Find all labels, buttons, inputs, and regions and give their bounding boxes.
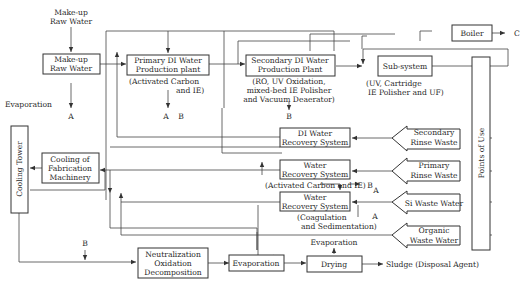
svg-text:Raw Water: Raw Water bbox=[50, 17, 93, 26]
points-of-use: Points of Use bbox=[472, 57, 490, 250]
svg-text:Recovery System: Recovery System bbox=[282, 138, 348, 147]
svg-text:Sub-system: Sub-system bbox=[383, 62, 427, 71]
svg-text:Drying: Drying bbox=[321, 260, 347, 269]
water-recovery-system-2: Water Recovery System (Coagulation and S… bbox=[280, 192, 377, 231]
svg-text:(UV, Cartridge: (UV, Cartridge bbox=[366, 79, 422, 88]
svg-text:Recovery System: Recovery System bbox=[282, 202, 348, 211]
svg-text:Primary: Primary bbox=[419, 161, 451, 170]
svg-text:Cooling of: Cooling of bbox=[50, 155, 91, 164]
svg-text:(Activated Carbon and IE): (Activated Carbon and IE) bbox=[265, 181, 366, 190]
svg-text:DI Water: DI Water bbox=[298, 129, 333, 138]
secondary-rinse-waste: Secondary Rinse Waste bbox=[392, 126, 460, 151]
marker-c: C bbox=[514, 29, 520, 38]
si-waste-water: Si Waste Water bbox=[392, 191, 464, 214]
svg-text:Production plant: Production plant bbox=[136, 65, 200, 74]
svg-text:Evaporation: Evaporation bbox=[233, 259, 280, 268]
marker-a: A bbox=[371, 212, 378, 221]
drying: Drying bbox=[307, 256, 362, 272]
secondary-di-water-plant: Secondary DI Water Production Plant (RO,… bbox=[243, 55, 335, 104]
svg-text:and Sedimentation): and Sedimentation) bbox=[301, 222, 377, 231]
svg-text:Primary DI Water: Primary DI Water bbox=[134, 56, 202, 65]
svg-text:IE Polisher and UF): IE Polisher and UF) bbox=[368, 88, 444, 97]
svg-text:Make-up: Make-up bbox=[54, 8, 88, 17]
makeup-source-label: Make-up Raw Water bbox=[50, 8, 93, 26]
sub-system: Sub-system (UV, Cartridge IE Polisher an… bbox=[366, 56, 444, 97]
svg-text:Rinse Waste: Rinse Waste bbox=[411, 138, 458, 147]
svg-text:Decomposition: Decomposition bbox=[144, 268, 201, 277]
svg-text:Secondary DI Water: Secondary DI Water bbox=[251, 56, 329, 65]
evaporation-label: Evaporation bbox=[5, 100, 52, 109]
svg-text:Water: Water bbox=[304, 161, 327, 170]
marker-a: A bbox=[372, 186, 379, 195]
marker-a: A bbox=[162, 112, 169, 121]
marker-b: B bbox=[82, 239, 88, 248]
primary-di-water-plant: Primary DI Water Production plant (Activ… bbox=[127, 55, 209, 95]
makeup-raw-water-box: Make-up Raw Water bbox=[43, 54, 100, 74]
svg-text:and IE): and IE) bbox=[176, 86, 204, 95]
svg-text:Waste Water: Waste Water bbox=[410, 236, 459, 245]
water-system-flow-diagram: Make-up Raw Water Make-up Raw Water A Pr… bbox=[0, 0, 528, 287]
svg-text:Production Plant: Production Plant bbox=[258, 65, 323, 74]
svg-text:Machinery: Machinery bbox=[49, 173, 91, 182]
boiler: Boiler bbox=[452, 25, 492, 41]
svg-text:Boiler: Boiler bbox=[460, 29, 484, 38]
svg-text:Neutralization: Neutralization bbox=[145, 250, 201, 259]
marker-b: B bbox=[286, 112, 292, 121]
neutralization-oxidation-decomposition: Neutralization Oxidation Decomposition bbox=[138, 248, 208, 278]
svg-text:Water: Water bbox=[304, 193, 327, 202]
svg-text:(Coagulation: (Coagulation bbox=[297, 213, 347, 222]
svg-text:Oxidation: Oxidation bbox=[154, 259, 191, 268]
svg-text:Fabrication: Fabrication bbox=[48, 164, 92, 173]
svg-text:and Vacuum Deaerator): and Vacuum Deaerator) bbox=[243, 95, 335, 104]
svg-text:Rinse Waste: Rinse Waste bbox=[411, 171, 458, 180]
di-water-recovery-system: DI Water Recovery System bbox=[280, 128, 350, 147]
svg-text:(Activated Carbon: (Activated Carbon bbox=[129, 77, 199, 86]
evaporation-box: Evaporation bbox=[229, 255, 284, 271]
marker-b: B bbox=[178, 112, 184, 121]
svg-text:Make-up: Make-up bbox=[54, 55, 88, 64]
primary-rinse-waste: Primary Rinse Waste bbox=[392, 158, 460, 184]
svg-text:mixed-bed IE Polisher: mixed-bed IE Polisher bbox=[247, 86, 332, 95]
cooling-tower: Cooling Tower bbox=[11, 126, 28, 213]
svg-text:Recovery System: Recovery System bbox=[282, 170, 348, 179]
cooling-fabrication-machinery: Cooling of Fabrication Machinery bbox=[42, 153, 99, 183]
marker-a: A bbox=[67, 112, 74, 121]
svg-text:Si Waste Water: Si Waste Water bbox=[405, 199, 464, 208]
svg-text:(RO, UV Oxidation,: (RO, UV Oxidation, bbox=[252, 77, 325, 86]
svg-text:Organic: Organic bbox=[419, 226, 450, 235]
svg-text:Secondary: Secondary bbox=[414, 128, 455, 137]
sludge-disposal-label: Sludge (Disposal Agent) bbox=[386, 260, 479, 269]
drying-evaporation-label: Evaporation bbox=[311, 238, 358, 247]
svg-text:Raw Water: Raw Water bbox=[50, 64, 93, 73]
organic-waste-water: Organic Waste Water bbox=[392, 223, 460, 248]
svg-text:Points of Use: Points of Use bbox=[477, 127, 486, 178]
water-recovery-system-1: Water Recovery System (Activated Carbon … bbox=[265, 160, 366, 190]
svg-text:Cooling Tower: Cooling Tower bbox=[15, 141, 24, 197]
